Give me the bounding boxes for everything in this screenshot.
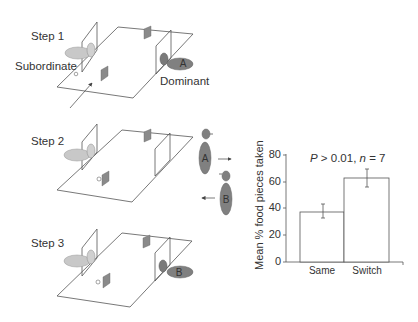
xtick-switch: Switch (344, 265, 390, 276)
animal-b-label-step3: B (176, 267, 183, 278)
bar-chart (283, 154, 403, 265)
step3-label: Step 3 (31, 237, 64, 249)
step1-arena (57, 22, 193, 108)
animal-a-label-step2: A (202, 153, 209, 164)
animal-a-label-step1: A (180, 58, 187, 69)
xtick-same: Same (299, 265, 345, 276)
step1-label: Step 1 (31, 30, 64, 42)
step3-arena (57, 229, 193, 307)
step2-arena (57, 124, 232, 215)
bar-same (300, 212, 344, 262)
chart-title-p: P (310, 152, 318, 164)
chart-title: P > 0.01, n = 7 (310, 152, 385, 164)
step2-label: Step 2 (31, 135, 64, 147)
chart-title-n-value: = 7 (366, 152, 386, 164)
y-axis-label: Mean % food pieces taken (253, 140, 265, 270)
chart-title-p-value: > 0.01, (318, 152, 360, 164)
animal-b-label-step2: B (223, 194, 230, 205)
subordinate-label: Subordinate (15, 60, 77, 72)
bar-switch (344, 178, 389, 262)
dominant-label: Dominant (160, 75, 209, 87)
